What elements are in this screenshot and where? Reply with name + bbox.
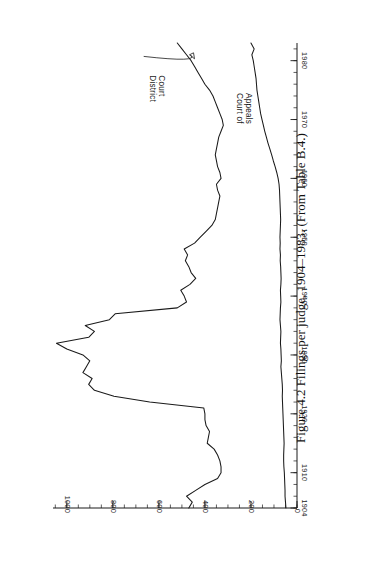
y-axis-tick-labels: 02004006008001000 bbox=[63, 495, 302, 512]
series-annotation-line: Appeals bbox=[244, 93, 253, 124]
series-line-district-court bbox=[56, 43, 223, 508]
rotated-figure-container: 190419101920193019401950196019701980 020… bbox=[35, 28, 335, 548]
annotation-court-of-appeals: Court ofAppeals bbox=[235, 93, 254, 124]
y-tick-label: 200 bbox=[247, 500, 256, 513]
y-tick-label: 600 bbox=[155, 500, 164, 513]
filings-per-judge-line-chart: 190419101920193019401950196019701980 020… bbox=[35, 28, 335, 548]
y-tick-label: 400 bbox=[201, 500, 210, 513]
y-tick-label: 1000 bbox=[63, 495, 72, 512]
series-annotation-line: Court of bbox=[235, 93, 244, 124]
series-annotations: DistrictCourtCourt ofAppeals bbox=[144, 52, 254, 123]
leader-arrow-district-court bbox=[144, 54, 192, 58]
y-tick-label: 800 bbox=[109, 500, 118, 513]
plot-area: 190419101920193019401950196019701980 020… bbox=[35, 28, 335, 548]
series-annotation-line: Court bbox=[157, 75, 166, 97]
figure-page: 190419101920193019401950196019701980 020… bbox=[0, 0, 370, 575]
y-axis-ticks bbox=[55, 501, 297, 508]
figure-caption: Figure 4.2 Filings per judge, 1904–1983.… bbox=[293, 28, 309, 548]
annotation-district-court: DistrictCourt bbox=[148, 75, 167, 102]
series-line-court-of-appeals bbox=[251, 43, 286, 508]
series-annotation-line: District bbox=[148, 75, 157, 102]
